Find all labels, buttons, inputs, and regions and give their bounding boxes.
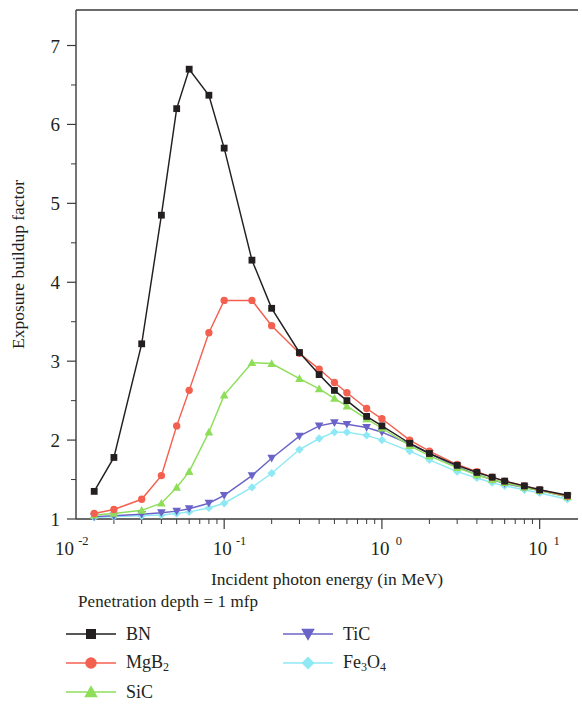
data-point — [173, 105, 180, 112]
data-point — [315, 384, 324, 392]
legend-label: SiC — [118, 683, 153, 701]
data-point — [315, 423, 324, 431]
data-point — [315, 434, 323, 442]
x-tick-label: 100 — [370, 534, 402, 559]
legend-item-SiC[interactable]: SiC — [64, 677, 169, 706]
data-point — [205, 428, 214, 436]
data-point — [205, 329, 212, 336]
data-point — [343, 389, 350, 396]
svg-text:10: 10 — [528, 538, 547, 559]
legend-marker-triangle-up-icon — [64, 681, 118, 703]
y-tick-label: 2 — [51, 430, 61, 451]
legend-title: Penetration depth = 1 mfp — [78, 592, 258, 612]
data-point — [316, 371, 323, 378]
y-tick-label: 5 — [51, 193, 61, 214]
svg-text:10: 10 — [370, 538, 389, 559]
data-point — [138, 340, 145, 347]
data-point — [379, 422, 386, 429]
y-tick-label: 1 — [51, 509, 61, 530]
data-point — [91, 510, 98, 517]
data-point — [249, 257, 256, 264]
data-point — [564, 492, 571, 499]
data-point — [536, 486, 543, 493]
chart-legend: Penetration depth = 1 mfp BNMgB2SiC TiCF… — [0, 592, 582, 711]
data-point — [343, 428, 351, 436]
data-point — [406, 440, 413, 447]
axis-frame — [76, 10, 578, 519]
data-point — [330, 394, 339, 402]
data-point — [330, 428, 338, 436]
legend-label: BN — [118, 625, 151, 643]
y-tick-label: 6 — [51, 114, 61, 135]
data-point — [185, 467, 194, 475]
x-axis-ticks: 10-210-1100101 — [55, 519, 560, 559]
data-point — [220, 492, 229, 500]
legend-column-left: BNMgB2SiC — [64, 619, 169, 706]
legend-item-BN[interactable]: BN — [64, 619, 169, 648]
data-point — [473, 469, 480, 476]
data-point — [158, 472, 165, 479]
data-point — [344, 397, 351, 404]
data-point — [220, 297, 227, 304]
legend-marker-triangle-down-icon — [281, 623, 335, 645]
data-point — [363, 413, 370, 420]
y-axis-title: Exposure buildup factor — [8, 180, 28, 349]
data-point — [331, 379, 338, 386]
data-point — [378, 415, 385, 422]
data-point — [296, 349, 303, 356]
data-point — [205, 92, 212, 99]
svg-text:-2: -2 — [78, 534, 88, 548]
legend-item-Fe3O4[interactable]: Fe3O4 — [281, 648, 386, 677]
data-point — [111, 454, 118, 461]
data-point — [248, 472, 257, 480]
data-point — [185, 387, 192, 394]
figure-container: 123456710-210-1100101Incident photon ene… — [0, 0, 582, 711]
data-point — [221, 145, 228, 152]
data-point — [362, 431, 370, 439]
data-point — [295, 374, 304, 382]
x-tick-label: 10-1 — [213, 534, 247, 559]
y-axis-ticks: 1234567 — [51, 36, 77, 530]
svg-text:10: 10 — [55, 538, 74, 559]
data-point — [138, 496, 145, 503]
legend-item-TiC[interactable]: TiC — [281, 619, 386, 648]
data-point — [91, 488, 98, 495]
svg-text:-1: -1 — [236, 534, 246, 548]
data-point — [158, 212, 165, 219]
data-point — [521, 482, 528, 489]
y-tick-label: 7 — [51, 36, 61, 57]
data-point — [501, 478, 508, 485]
data-point — [268, 322, 275, 329]
data-point — [110, 506, 117, 513]
data-point — [426, 450, 433, 457]
data-point — [378, 436, 386, 444]
legend-marker-diamond-icon — [281, 652, 335, 674]
data-point — [186, 66, 193, 73]
legend-label: Fe3O4 — [335, 653, 386, 673]
data-point — [331, 387, 338, 394]
y-tick-label: 3 — [51, 351, 61, 372]
legend-label: MgB2 — [118, 653, 169, 673]
x-tick-label: 101 — [528, 534, 560, 559]
legend-marker-circle-icon — [64, 652, 118, 674]
legend-marker-square-icon — [64, 623, 118, 645]
data-point — [363, 405, 370, 412]
data-point — [454, 462, 461, 469]
x-axis-title: Incident photon energy (in MeV) — [211, 569, 443, 589]
svg-text:0: 0 — [396, 534, 402, 548]
svg-text:10: 10 — [213, 538, 232, 559]
data-point — [173, 422, 180, 429]
x-tick-label: 10-2 — [55, 534, 89, 559]
data-point — [489, 474, 496, 481]
legend-label: TiC — [335, 625, 370, 643]
data-point — [248, 297, 255, 304]
legend-column-right: TiCFe3O4 — [281, 619, 386, 677]
svg-text:1: 1 — [554, 534, 560, 548]
legend-item-MgB2[interactable]: MgB2 — [64, 648, 169, 677]
y-tick-label: 4 — [51, 272, 61, 293]
data-point — [268, 305, 275, 312]
data-point — [220, 499, 228, 507]
